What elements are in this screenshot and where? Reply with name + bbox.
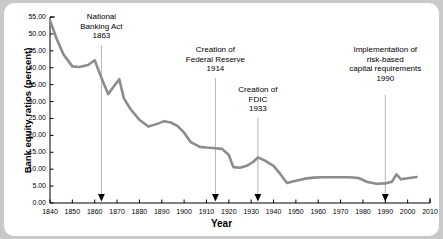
x-tick-label: 2010 <box>416 208 439 215</box>
y-tick-label: 20.00 <box>16 131 46 138</box>
y-tick-label: 5.00 <box>16 182 46 189</box>
chart-panel: Bank equity ratios (percent) Year 0.005.… <box>4 3 439 236</box>
annotation-arrow-marker <box>98 194 105 202</box>
y-tick-label: 45.00 <box>16 47 46 54</box>
annotation-arrow-marker <box>382 194 389 202</box>
annotation-fdic: Creation of FDIC 1933 <box>215 85 301 114</box>
y-tick-label: 0.00 <box>16 199 46 206</box>
annotation-arrow-marker <box>254 194 261 202</box>
chart-plot-area: Bank equity ratios (percent) Year 0.005.… <box>4 3 439 236</box>
annotation-arrow-marker <box>212 194 219 202</box>
y-tick-label: 30.00 <box>16 98 46 105</box>
annotation-federal-reserve: Creation of Federal Reserve 1914 <box>163 45 267 74</box>
annotation-risk-based-capital: Implementation of risk-based capital req… <box>326 45 439 83</box>
y-tick-label: 25.00 <box>16 114 46 121</box>
annotation-national-banking-act: National Banking Act 1863 <box>59 12 143 41</box>
y-tick-label: 10.00 <box>16 165 46 172</box>
y-tick-label: 55.00 <box>16 13 46 20</box>
y-tick-label: 35.00 <box>16 81 46 88</box>
y-tick-label: 15.00 <box>16 148 46 155</box>
y-tick-label: 50.00 <box>16 30 46 37</box>
y-tick-label: 40.00 <box>16 64 46 71</box>
